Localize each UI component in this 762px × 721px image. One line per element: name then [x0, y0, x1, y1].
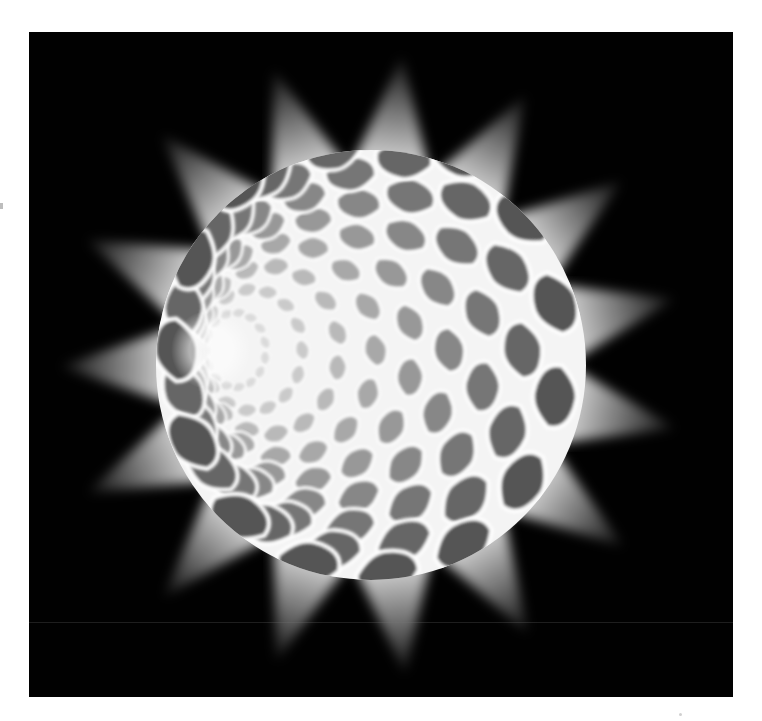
scan-line-artifact [29, 622, 733, 623]
foot-mark [679, 713, 682, 716]
photo-frame: Glowing sphere made of curved diamond-sh… [29, 32, 733, 697]
lamp-sculpture-photo [29, 32, 733, 697]
pole-highlight [171, 310, 251, 390]
edge-mark [0, 203, 3, 209]
